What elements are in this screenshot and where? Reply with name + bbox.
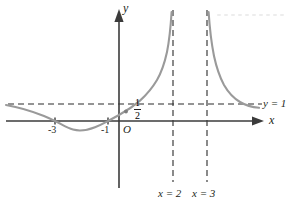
y-axis xyxy=(114,9,123,188)
horizontal-asymptote-label: y = 1 xyxy=(263,98,286,109)
y-intercept-marker xyxy=(124,110,128,114)
graph-canvas xyxy=(0,0,290,217)
fraction-denominator: 2 xyxy=(134,111,141,121)
x-tick-label-neg-one: -1 xyxy=(101,125,109,135)
origin-label: O xyxy=(123,124,131,135)
x-tick-label-neg-three: -3 xyxy=(48,125,56,135)
curve-right-branch xyxy=(209,12,259,108)
curve-left-branch xyxy=(6,12,172,130)
fraction-numerator: 1 xyxy=(134,98,141,108)
vertical-asymptote-x3-label: x = 3 xyxy=(192,188,215,199)
y-intercept-fraction-label: 1 2 xyxy=(134,98,141,121)
function-graph-figure: y x O -3 -1 1 2 y = 1 x = 2 x = 3 xyxy=(0,0,290,217)
y-axis-label: y xyxy=(123,2,128,14)
vertical-asymptote-x2-label: x = 2 xyxy=(158,188,181,199)
x-axis-label: x xyxy=(269,114,274,126)
